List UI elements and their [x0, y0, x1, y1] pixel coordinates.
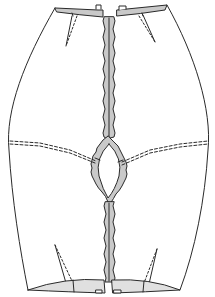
horizontal-seam-left-inner: [10, 144, 95, 163]
garment-diagram: [0, 0, 215, 297]
dart-bottom-right: [144, 249, 157, 284]
dart-bottom-left: [55, 245, 72, 283]
left-side-outline: [8, 8, 55, 290]
dart-top-left: [66, 16, 77, 46]
top-waistband-left: [55, 5, 103, 17]
dart-top-right: [139, 15, 155, 42]
top-waistband-right: [117, 5, 167, 16]
diamond-opening: [91, 136, 127, 204]
diagram-svg: [0, 0, 215, 297]
right-side-outline: [167, 5, 209, 290]
horizontal-seam-right: [122, 141, 208, 162]
bottom-band-right: [112, 280, 180, 293]
bottom-band-left: [28, 279, 105, 293]
